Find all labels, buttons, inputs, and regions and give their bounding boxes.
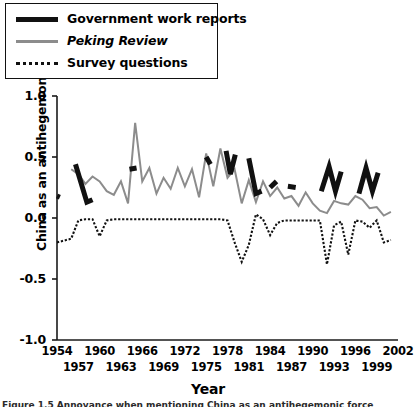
legend-label-survey-questions: Survey questions: [67, 57, 188, 70]
x-tick-label: 1981: [229, 360, 269, 374]
x-tick-label: 1957: [58, 360, 98, 374]
survey-questions-line: [57, 214, 391, 264]
legend-swatch-solid-gray-icon: [16, 34, 58, 48]
x-tick-label: 1999: [357, 360, 397, 374]
x-tick-label: 1972: [165, 344, 205, 358]
government-work-reports-segment-8: [321, 167, 341, 191]
government-work-reports-segment-2: [129, 168, 136, 169]
x-tick-label: 1966: [122, 344, 162, 358]
x-tick-label: 1960: [80, 344, 120, 358]
x-tick-label: 1954: [37, 344, 77, 358]
government-work-reports-segment-6: [270, 181, 276, 187]
legend-item-survey-questions: Survey questions: [16, 52, 188, 74]
series-survey-questions: [57, 214, 391, 264]
legend-item-government-work-reports: Government work reports: [16, 8, 247, 30]
legend-label-peking-review: Peking Review: [67, 35, 168, 48]
x-tick-label: 1969: [144, 360, 184, 374]
x-tick-label: 1963: [101, 360, 141, 374]
legend-item-peking-review: Peking Review: [16, 30, 168, 52]
government-work-reports-segment-9: [359, 168, 378, 194]
government-work-reports-segment-3: [206, 157, 210, 164]
axis-lines: [52, 96, 398, 340]
x-tick-label: 1993: [314, 360, 354, 374]
x-tick-label: 1990: [293, 344, 333, 358]
chart-legend: Government work reports Peking Review Su…: [5, 3, 218, 79]
x-tick-label: 1987: [271, 360, 311, 374]
x-tick-label: 1978: [208, 344, 248, 358]
x-tick-label: 1975: [186, 360, 226, 374]
x-tick-label: 1984: [250, 344, 290, 358]
government-work-reports-segment-7: [288, 186, 296, 187]
government-work-reports-segment-0: [57, 196, 60, 197]
figure-container: 1.00.50.0-0.5-1.0 1954196019661972197819…: [0, 0, 416, 407]
x-tick-label: 2002: [378, 344, 416, 358]
legend-swatch-dotted-icon: [16, 56, 58, 70]
figure-caption: Figure 1.5 Annoyance when mentioning Chi…: [2, 400, 416, 407]
x-axis-title: Year: [0, 381, 416, 397]
x-tick-label: 1996: [335, 344, 375, 358]
y-tick-label: -0.5: [12, 271, 46, 286]
legend-label-government-work-reports: Government work reports: [67, 13, 247, 26]
legend-swatch-solid-thick-icon: [16, 12, 58, 26]
